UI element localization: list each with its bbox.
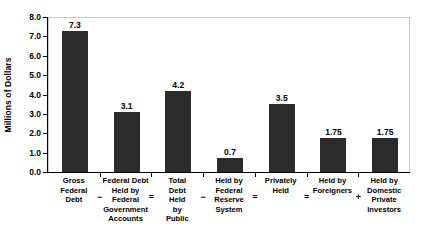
x-tick-mark — [203, 173, 204, 177]
y-tick-label: 2.0 — [29, 128, 41, 138]
category-label-line: Held — [160, 195, 194, 205]
bar-value-label: 1.75 — [325, 127, 342, 137]
y-tick-mark — [43, 133, 48, 134]
y-tick-mark — [43, 95, 48, 96]
category-label-line: Domestic — [360, 186, 408, 196]
category-label-line: by — [160, 205, 194, 215]
category-label-line: Debt — [160, 186, 194, 196]
category-label: Held byFederalReserveSystem — [207, 176, 251, 214]
bar — [62, 31, 88, 172]
category-label-line: Held by — [95, 186, 157, 196]
category-label-line: Gross — [54, 176, 94, 186]
y-tick-label: 1.0 — [29, 148, 41, 158]
y-axis-title: Millions of Dollars — [0, 17, 16, 172]
bar-value-label: 1.75 — [377, 127, 394, 137]
bar-chart: Millions of Dollars 8.07.06.05.04.03.02.… — [0, 0, 424, 246]
y-tick-mark — [43, 114, 48, 115]
y-tick-label: 8.0 — [29, 12, 41, 22]
category-label-line: Public — [160, 214, 194, 224]
bar-value-label: 3.1 — [121, 101, 133, 111]
plot-area: 7.33.14.20.73.51.751.75 — [48, 17, 410, 172]
category-operator: = — [149, 192, 154, 202]
y-tick-mark — [43, 36, 48, 37]
x-tick-mark — [307, 173, 308, 177]
category-label-line: Total — [160, 176, 194, 186]
category-operator: − — [201, 192, 206, 202]
category-label-line: Foreigners — [310, 186, 354, 196]
bar — [269, 104, 295, 172]
category-label: Held byDomesticPrivateInvestors — [360, 176, 408, 214]
category-label-line: Debt — [54, 195, 94, 205]
x-tick-mark — [255, 173, 256, 177]
category-label-line: Held by — [207, 176, 251, 186]
x-tick-mark — [100, 173, 101, 177]
category-label: Held byForeigners — [310, 176, 354, 195]
category-label-line: Held — [259, 186, 303, 196]
category-label-line: Reserve — [207, 195, 251, 205]
category-label-line: Accounts — [95, 214, 157, 224]
category-label-line: Federal Debt — [95, 176, 157, 186]
bar — [217, 158, 243, 172]
bar — [114, 112, 140, 172]
bar — [320, 138, 346, 172]
y-tick-label: 4.0 — [29, 90, 41, 100]
category-label-line: Federal — [95, 195, 157, 205]
category-label: PrivatelyHeld — [259, 176, 303, 195]
x-tick-mark — [151, 173, 152, 177]
category-label-line: Held by — [310, 176, 354, 186]
bar-value-label: 7.3 — [69, 20, 81, 30]
category-label-line: Federal — [207, 186, 251, 196]
bar — [372, 138, 398, 172]
y-tick-mark — [43, 172, 48, 173]
category-label-line: Government — [95, 205, 157, 215]
y-tick-label: 7.0 — [29, 31, 41, 41]
y-tick-mark — [43, 56, 48, 57]
x-axis-category-labels: GrossFederalDebtFederal DebtHeld byFeder… — [0, 176, 424, 246]
y-tick-mark — [43, 17, 48, 18]
category-label-line: System — [207, 205, 251, 215]
x-axis-line — [48, 172, 410, 173]
y-tick-mark — [43, 153, 48, 154]
category-label-line: Investors — [360, 205, 408, 215]
x-tick-mark — [358, 173, 359, 177]
category-operator: = — [304, 192, 309, 202]
y-tick-mark — [43, 75, 48, 76]
y-axis-tick-labels: 8.07.06.05.04.03.02.01.00.0 — [16, 17, 44, 172]
category-label: Federal DebtHeld byFederalGovernmentAcco… — [95, 176, 157, 224]
category-label-line: Held by — [360, 176, 408, 186]
bar-value-label: 0.7 — [224, 147, 236, 157]
category-operator: + — [356, 192, 361, 202]
category-label-line: Federal — [54, 186, 94, 196]
y-axis-title-text: Millions of Dollars — [3, 57, 13, 132]
y-tick-label: 3.0 — [29, 109, 41, 119]
bar — [165, 91, 191, 172]
category-label-line: Privately — [259, 176, 303, 186]
category-label-line: Private — [360, 195, 408, 205]
y-tick-label: 6.0 — [29, 51, 41, 61]
category-operator: = — [252, 192, 257, 202]
y-tick-label: 5.0 — [29, 70, 41, 80]
bar-value-label: 4.2 — [172, 80, 184, 90]
category-label: TotalDebtHeldbyPublic — [160, 176, 194, 224]
bar-value-label: 3.5 — [276, 93, 288, 103]
category-label: GrossFederalDebt — [54, 176, 94, 205]
category-operator: − — [97, 192, 102, 202]
